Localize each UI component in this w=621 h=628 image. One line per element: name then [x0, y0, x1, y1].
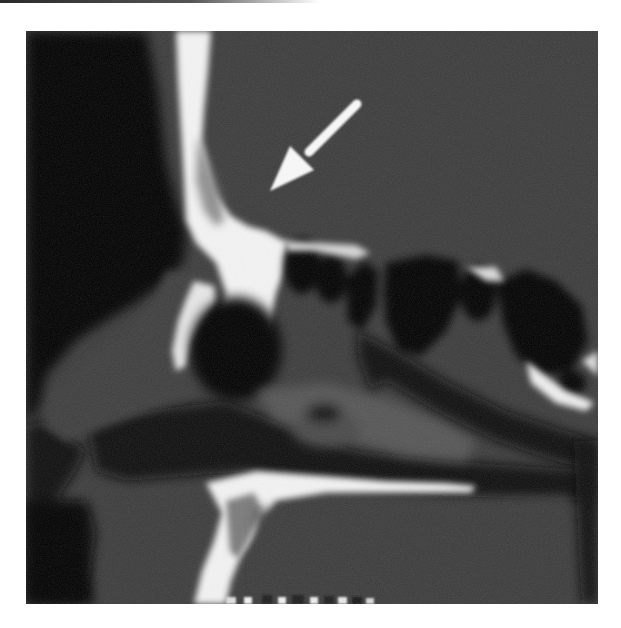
- top-edge-strip: [0, 0, 320, 3]
- ct-noise-texture: [26, 31, 598, 604]
- ct-scan-svg: [26, 31, 598, 604]
- ct-scan-image: [26, 31, 598, 604]
